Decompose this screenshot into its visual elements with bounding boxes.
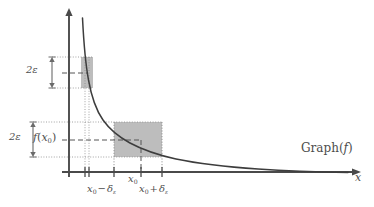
label-x0-sub: 0 xyxy=(134,178,138,185)
label-x0-minus-delta: x0 − δε xyxy=(87,184,116,194)
label-x0p-op: + xyxy=(150,183,158,194)
label-epsilon-band-upper: 2ε xyxy=(26,65,38,75)
label-x0-plus-delta: x0 + δε xyxy=(139,184,168,194)
label-x-axis: x xyxy=(355,172,361,183)
label-graph-head: Graph( xyxy=(301,141,344,155)
measure-bar-upper-epsilon xyxy=(49,57,56,88)
label-fx0-x: x xyxy=(41,131,47,144)
label-x0m-delta-sub: ε xyxy=(113,189,116,195)
label-fx0-f: f xyxy=(33,131,37,144)
label-x0m-op: − xyxy=(98,183,106,194)
label-x0p-delta-sub: ε xyxy=(165,189,168,195)
label-x0p-x: x xyxy=(139,183,145,194)
label-fx0-sub: 0 xyxy=(48,137,52,145)
figure-canvas xyxy=(0,0,374,207)
label-x0m-sub: 0 xyxy=(93,188,97,195)
label-x0m-x: x xyxy=(87,183,93,194)
label-x0: x0 xyxy=(128,174,138,184)
label-function-value: f(x0) xyxy=(33,132,56,143)
label-graph-of-f: Graph(f) xyxy=(301,142,353,154)
label-epsilon-band-lower: 2ε xyxy=(9,132,21,142)
epsilon-delta-figure: 2ε 2ε f(x0) x0 x0 − δε x0 + δε Graph(f) … xyxy=(0,0,374,207)
label-x0-x: x xyxy=(128,173,134,184)
label-x0p-sub: 0 xyxy=(145,188,149,195)
label-graph-tail: ) xyxy=(348,141,353,155)
y-axis xyxy=(65,8,72,177)
